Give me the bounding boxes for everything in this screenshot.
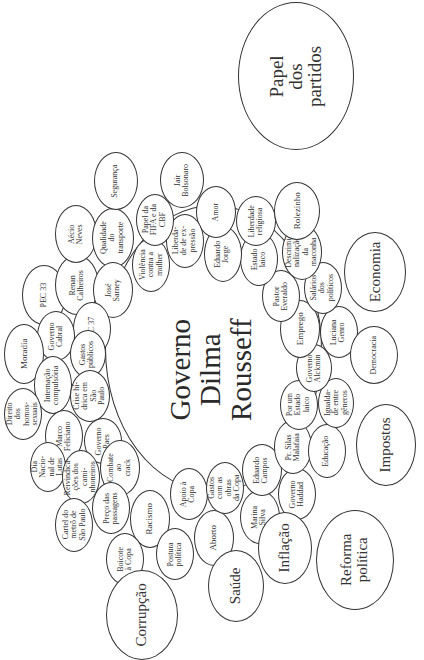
topic-democracia: Democracia <box>350 326 398 384</box>
topic-corrupcao: Corrupção <box>106 570 178 660</box>
node-educacao: Educação <box>308 424 346 478</box>
topic-inflacao: Inflação <box>258 512 312 584</box>
topic-impostos: Impostos <box>356 404 416 486</box>
node-crise-hidrica: Crise hí- drica em São Paulo <box>70 370 110 422</box>
topic-reforma-politica: Reforma política <box>316 510 394 610</box>
node-rolezinho: Rolezinho <box>274 182 320 240</box>
central-title-label: Governo Dilma Rousseff <box>164 319 255 422</box>
node-preco-passagens: Preço das passagens <box>92 482 130 534</box>
node-violencia-mulher: Violência contra a mulher <box>132 238 170 292</box>
topic-saude: Saúde <box>208 550 264 622</box>
node-postura-politica: Postura política <box>156 528 194 580</box>
node-apoio-copa: Apoio à Copa <box>170 468 208 520</box>
node-dia-nacional-lutas: Dia Nacio- nal de Lutas <box>30 442 66 492</box>
node-jair-bolsonaro: Jair Bolsonaro <box>160 152 204 208</box>
node-aecio-neves: Aécio Neves <box>55 205 97 263</box>
central-title: Governo Dilma Rousseff <box>160 280 260 460</box>
node-liberdade-religiosa: Liberdade religiosa <box>236 196 276 246</box>
node-gastos-obras-copa: Gastos com as obras da Copa <box>206 462 244 514</box>
node-qualidade-transporte: Qualidade do transporte <box>92 208 134 268</box>
node-seguranca: Segurança <box>94 152 138 210</box>
node-direito-homossexuais: Direito dos homos- sexuais <box>4 388 42 440</box>
topic-papel-dos-partidos: Papel dos partidos <box>238 2 354 150</box>
topic-economia: Economia <box>344 232 406 312</box>
node-cartel-metro: Cartel do metrô de São Paulo <box>55 498 93 552</box>
